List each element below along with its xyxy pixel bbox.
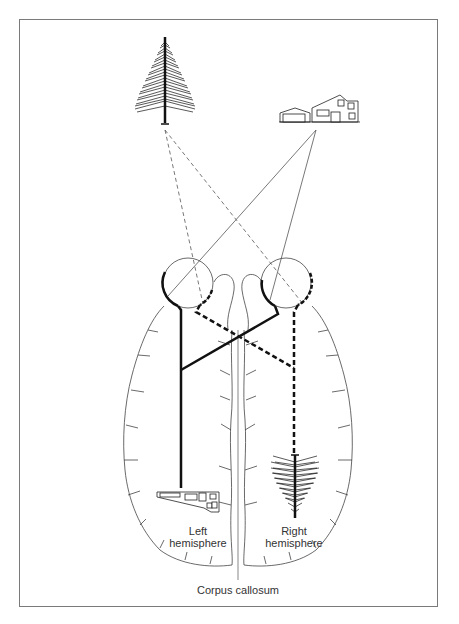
tree-light-rays: [165, 130, 303, 304]
right-hemisphere-label: Right hemisphere: [259, 525, 329, 549]
inverted-tree-icon: [271, 455, 319, 518]
house-light-rays: [168, 130, 316, 300]
visual-pathway-diagram: [0, 0, 459, 624]
house-icon: [279, 95, 360, 122]
inverted-house-icon: [157, 492, 219, 512]
corpus-callosum-label: Corpus callosum: [188, 584, 288, 596]
left-hemisphere-label: Left hemisphere: [168, 525, 228, 549]
right-hemisphere-label-line2: hemisphere: [259, 537, 329, 549]
tree-icon: [135, 37, 195, 124]
right-eye: [261, 258, 312, 308]
dashed-pathway: [196, 305, 298, 455]
left-solid-pathway: [178, 306, 278, 488]
left-hemisphere-label-line1: Left: [168, 525, 228, 537]
right-hemisphere-label-line1: Right: [259, 525, 329, 537]
left-hemisphere-label-line2: hemisphere: [168, 537, 228, 549]
left-eye: [163, 258, 213, 308]
